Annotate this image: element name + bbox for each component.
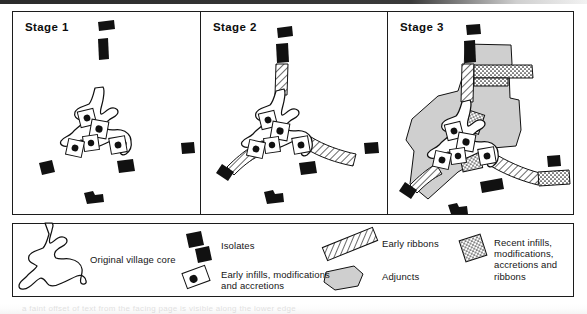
bleed-through-text: a faint offset of text from the facing p… — [22, 304, 442, 313]
stage-panel-2: Stage 2 — [200, 12, 388, 214]
stage-2-title: Stage 2 — [213, 21, 257, 33]
scan-edge-top — [0, 0, 587, 4]
legend-label-original-village-core: Original village core — [90, 254, 176, 266]
stage-panel-1: Stage 1 — [13, 12, 200, 214]
legend-label-adjuncts: Adjuncts — [382, 271, 419, 283]
stage-panel-3: Stage 3 — [387, 12, 576, 214]
legend-swatch-early-ribbons — [322, 227, 377, 260]
legend-swatch-isolates — [186, 231, 212, 263]
legend-swatch-village-core — [19, 223, 86, 289]
legend-label-early-ribbons: Early ribbons — [382, 238, 439, 250]
stage-panels-container: Stage 1 — [12, 11, 574, 215]
legend-label-recent-infills-line3: accretions and ribbons — [494, 259, 573, 282]
legend-label-isolates: Isolates — [221, 240, 255, 252]
stage-3-map — [388, 12, 576, 214]
figure-root: Stage 1 — [0, 0, 587, 314]
stage-1-map — [13, 12, 200, 214]
legend-box: Original village core Isolates Early inf… — [12, 223, 574, 297]
stage-2-map — [201, 12, 388, 214]
legend-swatch-recent-infills — [459, 234, 487, 262]
legend-label-recent-infills-line2: modifications, — [494, 248, 553, 260]
legend-swatch-early-infills — [182, 265, 210, 288]
legend-label-early-infills-line1: Early infills, modifications — [221, 269, 330, 281]
legend-label-recent-infills-line1: Recent infills, — [494, 237, 552, 249]
stage-3-title: Stage 3 — [400, 21, 444, 33]
stage-1-title: Stage 1 — [25, 21, 69, 33]
legend-label-early-infills-line2: and accretions — [221, 280, 284, 292]
